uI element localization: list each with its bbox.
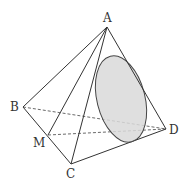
label-A: A — [103, 12, 112, 24]
label-C: C — [66, 168, 75, 180]
label-M: M — [33, 137, 45, 149]
diagram-canvas: A B M C D — [0, 0, 189, 184]
edge-AB — [23, 27, 107, 107]
label-D: D — [169, 124, 179, 136]
edge-MD-dashed — [48, 129, 166, 135]
tetrahedron-figure — [0, 0, 189, 184]
label-B: B — [10, 101, 19, 113]
edge-BC — [23, 107, 71, 164]
